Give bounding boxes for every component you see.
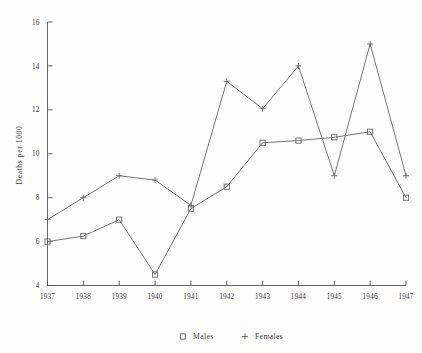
legend-label-females: Females — [255, 332, 283, 341]
plot-background — [0, 0, 422, 353]
chart-figure: 46810121416 1937193819391940194119421943… — [0, 0, 422, 353]
x-tick-label: 1943 — [255, 293, 270, 301]
x-tick-label: 1938 — [76, 293, 91, 301]
x-tick-label: 1947 — [398, 293, 413, 301]
x-tick-label: 1942 — [219, 293, 234, 301]
x-tick-label: 1945 — [327, 293, 342, 301]
x-tick-label: 1944 — [291, 293, 306, 301]
y-axis-title: Deaths per 1000 — [15, 126, 24, 185]
y-tick-label: 6 — [36, 238, 40, 246]
x-tick-label: 1937 — [40, 293, 55, 301]
legend-label-males: Males — [193, 332, 214, 341]
line-chart-plot: 46810121416 1937193819391940194119421943… — [0, 0, 422, 353]
x-tick-label: 1946 — [363, 293, 378, 301]
x-tick-label: 1939 — [112, 293, 127, 301]
x-tick-label: 1940 — [147, 293, 162, 301]
y-tick-label: 4 — [36, 282, 40, 290]
y-tick-label: 16 — [32, 19, 40, 27]
y-tick-label: 12 — [32, 106, 40, 114]
y-tick-label: 8 — [36, 194, 40, 202]
y-tick-label: 14 — [32, 63, 40, 71]
y-tick-label: 10 — [32, 150, 40, 158]
x-tick-label: 1941 — [183, 293, 198, 301]
